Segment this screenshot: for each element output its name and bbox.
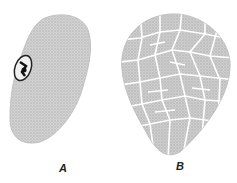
figure-panel-a	[0, 0, 115, 160]
panel-label-a: A	[59, 162, 67, 174]
panel-label-b: B	[176, 160, 184, 172]
figure-panel-b	[110, 0, 237, 160]
